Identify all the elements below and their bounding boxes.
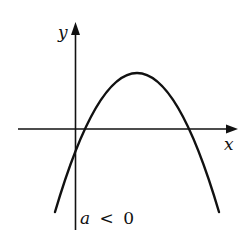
condition-variable: a xyxy=(80,208,90,228)
x-axis-label: x xyxy=(224,134,234,154)
y-axis-arrow-icon xyxy=(71,22,80,35)
condition-operator: < xyxy=(100,208,114,228)
parabola-curve xyxy=(55,73,219,212)
parabola-diagram: y x a < 0 xyxy=(0,0,251,230)
condition-value: 0 xyxy=(123,208,134,228)
condition-label: a < 0 xyxy=(80,208,134,228)
y-axis-label: y xyxy=(57,22,68,42)
x-axis-arrow-icon xyxy=(226,125,238,134)
